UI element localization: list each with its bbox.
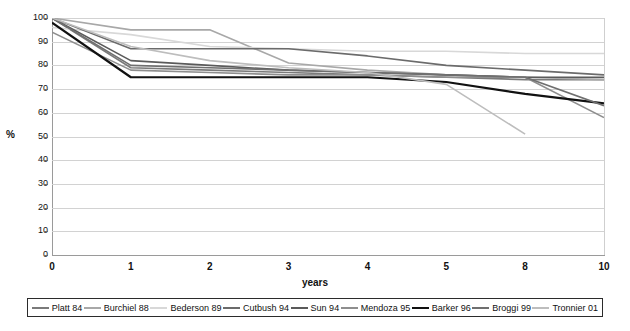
legend-line-swatch-icon — [341, 307, 358, 309]
x-axis-title: years — [0, 277, 630, 288]
y-axis-tick-mark — [44, 42, 48, 43]
legend-line-swatch-icon — [150, 307, 167, 309]
y-axis-tick-label: 30 — [10, 179, 48, 188]
legend-item-label: Tronnier 01 — [552, 303, 598, 313]
y-axis-tick-mark — [44, 113, 48, 114]
x-axis-tick-label: 1 — [116, 261, 146, 273]
legend-item[interactable]: Barker 96 — [412, 303, 471, 313]
series-line — [52, 32, 604, 117]
legend-line-swatch-icon — [291, 307, 308, 309]
legend-item-label: Cutbush 94 — [243, 303, 289, 313]
x-axis-tick-group: 012345810 — [0, 261, 630, 275]
y-axis-tick-mark — [44, 231, 48, 232]
x-axis-tick-label: 4 — [352, 261, 382, 273]
legend-line-swatch-icon — [223, 307, 240, 309]
legend-item[interactable]: Tronnier 01 — [532, 303, 598, 313]
y-axis-tick-mark — [44, 137, 48, 138]
legend-item-label: Broggi 99 — [492, 303, 531, 313]
series-lines — [52, 18, 604, 255]
y-axis-tick-label: 20 — [10, 203, 48, 212]
series-line — [52, 27, 604, 53]
x-axis-tick-label: 10 — [589, 261, 619, 273]
y-axis-tick-label: 60 — [10, 108, 48, 117]
legend-item-label: Burchiel 88 — [104, 303, 149, 313]
legend-item[interactable]: Bederson 89 — [150, 303, 221, 313]
legend-line-swatch-icon — [472, 307, 489, 309]
legend-item[interactable]: Sun 94 — [291, 303, 340, 313]
x-axis-line — [52, 255, 605, 256]
y-axis-tick-label: 90 — [10, 37, 48, 46]
legend-item-label: Mendoza 95 — [361, 303, 411, 313]
y-axis-tick-mark — [44, 208, 48, 209]
y-axis-tick-label: 50 — [10, 132, 48, 141]
y-axis-tick-label: 40 — [10, 155, 48, 164]
y-axis-tick-mark — [44, 184, 48, 185]
series-line — [52, 18, 525, 134]
legend-line-swatch-icon — [84, 307, 101, 309]
y-axis-tick-mark — [44, 160, 48, 161]
legend-item-label: Sun 94 — [311, 303, 340, 313]
y-axis-tick-mark — [44, 255, 48, 256]
legend-line-swatch-icon — [412, 307, 429, 309]
plot-area — [52, 18, 604, 255]
x-axis-tick-label: 3 — [274, 261, 304, 273]
y-axis-tick-mark — [44, 65, 48, 66]
x-axis-tick-label: 0 — [37, 261, 67, 273]
legend-item-label: Platt 84 — [52, 303, 83, 313]
x-axis-tick-label: 2 — [195, 261, 225, 273]
legend-item[interactable]: Burchiel 88 — [84, 303, 149, 313]
x-axis-tick-label: 8 — [510, 261, 540, 273]
legend-item-label: Bederson 89 — [170, 303, 221, 313]
y-axis-tick-label: 70 — [10, 84, 48, 93]
legend-item-label: Barker 96 — [432, 303, 471, 313]
legend-item[interactable]: Mendoza 95 — [341, 303, 411, 313]
y-axis-tick-mark — [44, 18, 48, 19]
chart-legend: Platt 84Burchiel 88Bederson 89Cutbush 94… — [27, 298, 603, 317]
legend-line-swatch-icon — [532, 307, 549, 309]
y-axis-tick-label: 100 — [10, 13, 48, 22]
figure-container: % 1009080706050403020100 012345810 years… — [0, 0, 630, 331]
x-axis-tick-label: 5 — [431, 261, 461, 273]
y-axis-tick-label: 80 — [10, 60, 48, 69]
legend-item[interactable]: Broggi 99 — [472, 303, 531, 313]
y-axis-tick-label: 10 — [10, 226, 48, 235]
plot-border-right — [604, 18, 605, 256]
y-axis-tick-mark — [44, 89, 48, 90]
legend-item[interactable]: Platt 84 — [32, 303, 83, 313]
legend-line-swatch-icon — [32, 307, 49, 309]
y-axis-tick-label: 0 — [10, 250, 48, 259]
legend-item[interactable]: Cutbush 94 — [223, 303, 289, 313]
